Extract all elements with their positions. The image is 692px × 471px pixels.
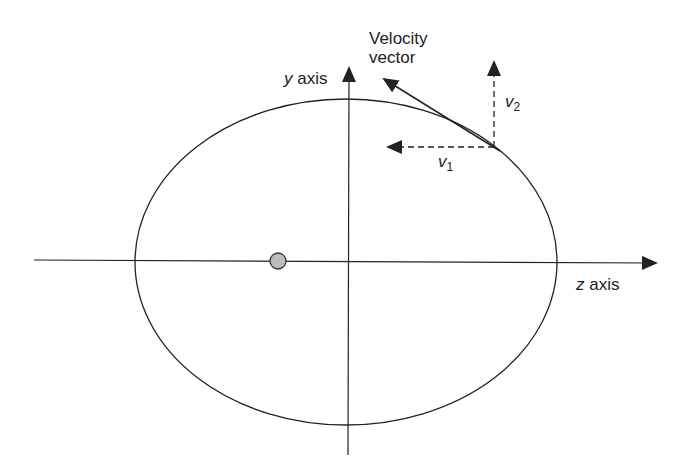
v2-sub: 2: [514, 100, 521, 114]
v2-var: v: [505, 92, 514, 111]
y-axis-text: axis: [293, 69, 328, 88]
velocity-vector-arrow: [384, 79, 500, 151]
y-axis-label: y axis: [284, 70, 327, 87]
focus-body: [270, 253, 286, 269]
y-axis-line: [348, 68, 349, 455]
velocity-vector-label: Velocity vector: [369, 30, 428, 66]
v1-label: v1: [438, 153, 453, 173]
v1-var: v: [438, 152, 447, 171]
velocity-label-line1: Velocity: [369, 30, 428, 47]
velocity-label-line2: vector: [369, 49, 428, 66]
z-var: z: [576, 275, 585, 294]
orbit-diagram: [0, 0, 692, 471]
z-axis-text: axis: [585, 275, 620, 294]
v2-label: v2: [505, 93, 520, 113]
y-var: y: [284, 69, 293, 88]
z-axis-line: [34, 260, 656, 263]
z-axis-label: z axis: [576, 276, 619, 293]
v1-sub: 1: [447, 160, 454, 174]
